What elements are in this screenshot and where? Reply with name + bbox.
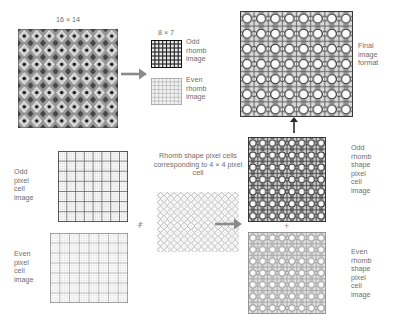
- arrow-recombine-to-final: [287, 117, 301, 137]
- even-pixel-cell-image-svg: [50, 233, 128, 303]
- even-pixel-cell-image-label: Even pixel cell image: [14, 250, 54, 284]
- rhomb-shape-caption: Rhomb shape pixel cells corresponding to…: [152, 152, 244, 178]
- odd-pixel-cell-image-svg: [58, 151, 128, 222]
- plus-input-combine: +: [138, 220, 143, 229]
- odd-rhomb-shape-pixel-cell-image[interactable]: [248, 137, 326, 222]
- odd-rhomb-image[interactable]: [151, 40, 182, 68]
- even-rhomb-image[interactable]: [151, 78, 182, 105]
- arrow-combine-to-rhomb-shape: [215, 216, 243, 236]
- final-image-svg: [240, 11, 353, 117]
- arrow-source-to-subimages: [121, 66, 148, 86]
- even-rhomb-shape-pixel-cell-image[interactable]: [248, 232, 326, 314]
- odd-pixel-cell-image-label: Odd pixel cell image: [14, 168, 54, 202]
- odd-rhomb-shape-svg: [248, 137, 326, 222]
- even-pixel-cell-image[interactable]: [50, 233, 128, 303]
- even-rhomb-image-svg: [151, 78, 182, 105]
- odd-pixel-cell-image[interactable]: [58, 151, 128, 222]
- source-image-16x14[interactable]: [18, 29, 118, 128]
- sub-dims-label: 8 × 7: [148, 29, 184, 38]
- even-rhomb-image-label: Even rhomb image: [186, 76, 228, 102]
- odd-rhomb-image-label: Odd rhomb image: [186, 38, 228, 64]
- final-image-format-label: Final image format: [358, 42, 402, 68]
- odd-rhomb-shape-pixel-cell-image-label: Odd rhomb shape pixel cell image: [351, 144, 395, 196]
- final-image-format[interactable]: [240, 11, 353, 117]
- plus-right-combine: +: [284, 222, 289, 231]
- even-rhomb-shape-pixel-cell-image-label: Even rhomb shape pixel cell image: [351, 248, 395, 300]
- even-rhomb-shape-svg: [248, 232, 326, 314]
- source-image-svg: [18, 29, 118, 128]
- odd-rhomb-image-svg: [151, 40, 182, 68]
- source-dims-label: 16 × 14: [18, 16, 118, 25]
